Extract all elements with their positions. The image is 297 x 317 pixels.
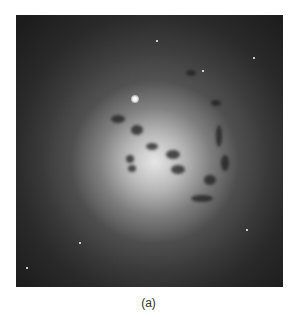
dust-lane — [204, 175, 216, 185]
dust-lane — [128, 165, 136, 172]
galaxy-image — [16, 15, 283, 287]
star — [79, 242, 81, 244]
dust-lane — [171, 165, 185, 174]
star — [202, 70, 204, 72]
dust-lane — [126, 155, 134, 163]
bright-star — [131, 95, 139, 103]
star — [253, 57, 255, 59]
star — [156, 40, 158, 42]
dust-lane — [111, 115, 125, 123]
dust-lane — [146, 143, 158, 150]
star — [26, 267, 28, 269]
dust-lane — [221, 155, 229, 171]
dust-lane — [186, 70, 196, 76]
dust-lane — [216, 125, 222, 147]
star — [246, 229, 248, 231]
dust-lane — [191, 195, 213, 202]
dust-lane — [131, 125, 143, 135]
dust-lane — [211, 100, 221, 106]
dust-lane — [166, 150, 180, 159]
figure-caption: (a) — [0, 296, 297, 310]
